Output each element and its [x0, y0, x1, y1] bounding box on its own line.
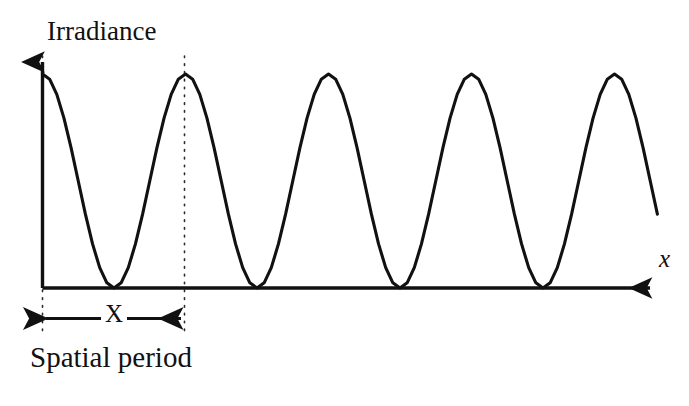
- irradiance-spatial-period-figure: Irradiance x X Spatial period: [0, 0, 689, 406]
- x-axis-label: x: [659, 246, 670, 271]
- period-symbol-label: X: [101, 301, 127, 326]
- irradiance-curve: [43, 74, 658, 288]
- spatial-period-caption: Spatial period: [30, 343, 192, 372]
- y-axis-label: Irradiance: [47, 18, 156, 45]
